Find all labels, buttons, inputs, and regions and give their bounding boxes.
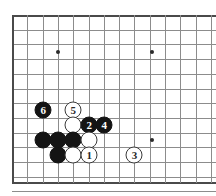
star-lower-right: [150, 138, 154, 142]
black-stone-move-6: 6: [35, 101, 52, 118]
white-stone-move-1: 1: [81, 146, 98, 163]
board-edge-left: [12, 15, 14, 183]
grid-line-vertical: [119, 15, 120, 183]
stone-move-number: 4: [102, 119, 108, 130]
stone-move-number: 3: [132, 149, 138, 160]
grid-line-vertical: [43, 15, 44, 183]
grid-line-vertical: [196, 15, 197, 183]
black-stone-move-4: 4: [96, 116, 113, 133]
star-upper-left: [56, 50, 60, 54]
stone-move-number: 1: [87, 149, 93, 160]
grid-line-vertical: [27, 15, 28, 183]
go-board-diagram: 562413: [0, 0, 216, 196]
stone-move-number: 5: [70, 104, 76, 115]
stone-move-number: 2: [87, 119, 93, 130]
white-stone-plain-g: [65, 146, 82, 163]
grid-line-vertical: [150, 15, 151, 183]
stone-move-number: 6: [41, 104, 47, 115]
white-stone-move-3: 3: [126, 146, 143, 163]
grid-line-vertical: [104, 15, 105, 183]
grid-line-vertical: [165, 15, 166, 183]
grid-line-horizontal: [12, 191, 216, 192]
star-upper-right: [150, 50, 154, 54]
grid-line-vertical: [180, 15, 181, 183]
grid-line-vertical: [211, 15, 212, 183]
